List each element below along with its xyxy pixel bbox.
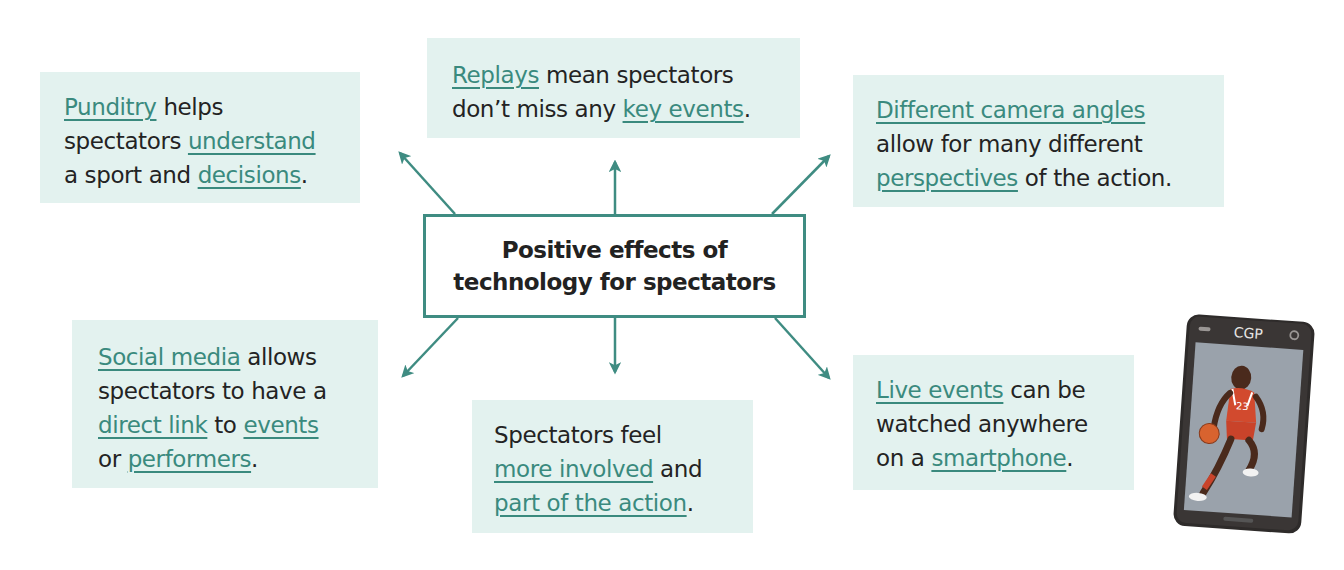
effect-box-social-media: Social media allows spectators to have a… [72, 320, 378, 488]
arrow-to-punditry [400, 153, 455, 214]
keyword-replays: Replays [452, 62, 539, 88]
keyword-more-involved: more involved [494, 456, 653, 482]
keyword-different-camera-angles: Different camera angles [876, 97, 1145, 123]
central-topic-box: Positive effects of technology for spect… [423, 214, 806, 318]
arrow-to-live [775, 318, 829, 378]
smartphone-illustration: CGP 23 [1170, 310, 1320, 538]
keyword-perspectives: perspectives [876, 165, 1018, 191]
keyword-social-media: Social media [98, 344, 240, 370]
effect-box-replays: Replays mean spectators don’t miss any k… [427, 38, 800, 138]
keyword-key-events: key events [623, 96, 744, 122]
central-topic-line-1: Positive effects of [453, 234, 775, 266]
keyword-decisions: decisions [198, 162, 301, 188]
keyword-part-of-the-action: part of the action [494, 490, 687, 516]
keyword-understand: understand [188, 128, 316, 154]
keyword-direct-link: direct link [98, 412, 207, 438]
central-topic-line-2: technology for spectators [453, 266, 775, 298]
effect-box-live-events: Live events can be watched anywhere on a… [853, 355, 1134, 490]
keyword-punditry: Punditry [64, 94, 157, 120]
svg-text:23: 23 [1235, 400, 1248, 412]
arrow-to-social [403, 318, 458, 376]
keyword-smartphone: smartphone [931, 445, 1066, 471]
keyword-performers: performers [128, 446, 251, 472]
arrow-to-camera [772, 156, 829, 214]
phone-speaker-icon [1198, 327, 1210, 332]
effect-box-punditry: Punditry helps spectators understand a s… [40, 72, 360, 203]
keyword-events: events [243, 412, 318, 438]
effect-box-camera-angles: Different camera angles allow for many d… [853, 75, 1224, 207]
effect-box-more-involved: Spectators feel more involved and part o… [472, 400, 753, 533]
phone-brand-label: CGP [1233, 324, 1263, 342]
keyword-live-events: Live events [876, 377, 1003, 403]
